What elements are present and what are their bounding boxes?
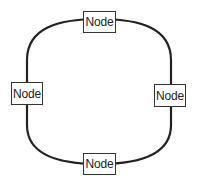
node-label: Node (156, 90, 184, 102)
node-bottom: Node (83, 153, 116, 175)
ring-topology-diagram: Node Node Node Node (0, 0, 198, 186)
node-top: Node (83, 11, 116, 33)
node-label: Node (13, 88, 41, 100)
node-label: Node (86, 158, 114, 170)
node-label: Node (86, 16, 114, 28)
node-right: Node (154, 84, 186, 107)
node-left: Node (11, 82, 43, 105)
